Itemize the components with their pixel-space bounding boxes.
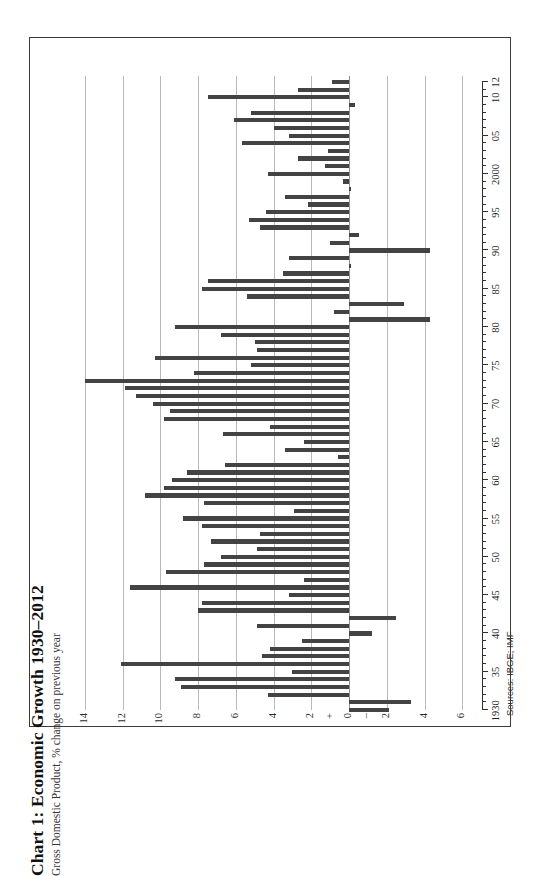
bar-1937: [262, 654, 349, 658]
bar-1951: [257, 547, 349, 551]
year-axis-tick: [482, 709, 488, 710]
year-axis-tick: [482, 548, 486, 549]
year-axis-tick: [482, 410, 486, 411]
year-axis-tick: [482, 426, 486, 427]
year-axis-tick: [482, 602, 486, 603]
bar-1933: [181, 685, 349, 689]
year-axis-tick: [482, 142, 486, 143]
bar-1990: [349, 248, 430, 252]
bar-1942: [349, 616, 396, 620]
year-axis-tick: [482, 89, 486, 90]
value-axis-tick-label: 2: [304, 713, 315, 727]
year-axis-tick: [482, 395, 486, 396]
bar-2003: [328, 149, 349, 153]
bar-1958: [145, 493, 349, 497]
bar-2005: [289, 134, 349, 138]
bar-1960: [172, 478, 349, 482]
year-axis-tick: [482, 387, 486, 388]
year-axis-tick: [482, 81, 488, 82]
year-axis-tick: [482, 510, 486, 511]
year-axis-tick: [482, 372, 486, 373]
year-axis-tick: [482, 265, 486, 266]
year-axis-label: 45: [490, 590, 501, 601]
year-axis-tick: [482, 380, 486, 381]
year-axis-tick: [482, 694, 486, 695]
year-axis-tick: [482, 326, 488, 327]
bar-1994: [249, 218, 349, 222]
bar-1971: [136, 394, 349, 398]
bar-1953: [260, 532, 349, 536]
bar-2001: [325, 164, 350, 168]
year-axis-label: 12: [490, 77, 501, 88]
year-axis-tick: [482, 686, 486, 687]
year-axis-label: 40: [490, 629, 501, 640]
value-axis-tick-label: 4: [267, 713, 278, 727]
year-axis-tick: [482, 632, 488, 633]
year-axis-label: 80: [490, 322, 501, 333]
year-axis-label: 2000: [490, 164, 501, 185]
source-note: Sources: IBGE; IMF: [504, 632, 515, 716]
year-axis-tick: [482, 96, 488, 97]
year-axis-tick: [482, 295, 486, 296]
year-axis-tick: [482, 234, 486, 235]
year-axis-tick: [482, 433, 486, 434]
year-axis-tick: [482, 188, 486, 189]
bar-1956: [294, 509, 349, 513]
value-gridline: [349, 76, 350, 710]
year-axis-tick: [482, 701, 486, 702]
bar-1945: [289, 593, 349, 597]
bar-1976: [155, 356, 349, 360]
bar-1930: [349, 708, 389, 712]
year-axis-label: 1930: [490, 700, 501, 721]
year-axis-tick: [482, 127, 486, 128]
bar-1984: [247, 294, 349, 298]
value-axis-tick-label: –: [360, 713, 371, 727]
year-axis-tick: [482, 479, 488, 480]
bar-1975: [251, 363, 349, 367]
bar-1940: [349, 631, 372, 635]
year-axis-tick: [482, 204, 486, 205]
year-axis-tick: [482, 663, 486, 664]
year-axis-tick: [482, 341, 486, 342]
bar-1968: [164, 417, 349, 421]
bar-1981: [349, 317, 430, 321]
bar-1998: [349, 187, 351, 191]
year-axis-tick: [482, 617, 486, 618]
value-gridline: [425, 76, 426, 710]
year-axis-tick: [482, 518, 488, 519]
year-axis-tick: [482, 648, 486, 649]
year-axis-tick: [482, 165, 486, 166]
value-axis-tick-label: 12: [116, 713, 127, 727]
bar-1962: [225, 463, 350, 467]
bar-1961: [187, 471, 349, 475]
bar-1977: [257, 348, 349, 352]
bar-2007: [234, 118, 349, 122]
bar-1973: [85, 379, 349, 383]
bar-1966: [223, 432, 349, 436]
bar-2012: [332, 80, 349, 84]
bar-1936: [121, 662, 349, 666]
year-axis-label: 75: [490, 360, 501, 371]
year-axis-tick: [482, 678, 486, 679]
bar-1995: [266, 210, 349, 214]
bar-1946: [130, 585, 349, 589]
bar-1932: [268, 693, 349, 697]
year-axis-label: 55: [490, 514, 501, 525]
year-axis-tick: [482, 594, 488, 595]
bar-1964: [285, 448, 349, 452]
value-axis-tick-label: 0: [342, 713, 353, 727]
bar-1979: [221, 333, 349, 337]
year-axis-label: 05: [490, 131, 501, 142]
value-axis-tick-label: 2: [380, 713, 391, 727]
bar-1934: [175, 677, 349, 681]
bar-1980: [175, 325, 349, 329]
year-axis-tick: [482, 250, 488, 251]
bar-2006: [274, 126, 349, 130]
bar-1967: [270, 425, 349, 429]
year-axis-tick: [482, 502, 486, 503]
plot-area: 1412108642+0–246193035404550556065707580…: [30, 38, 512, 728]
bar-1982: [334, 310, 349, 314]
bar-1965: [304, 440, 349, 444]
year-axis-tick: [482, 609, 486, 610]
